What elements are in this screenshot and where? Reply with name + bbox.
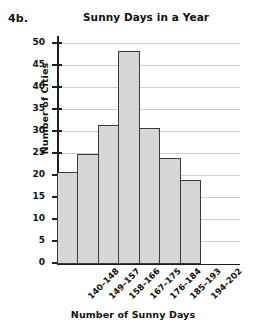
plot-area: 05101520253035404550 (57, 44, 240, 264)
y-axis-tick-label: 0 (39, 257, 45, 267)
bar (57, 172, 79, 264)
bar (77, 154, 99, 264)
chart-title: Sunny Days in a Year (46, 11, 246, 23)
y-axis-title: Number of Cities (39, 63, 50, 155)
figure-label: 4b. (8, 12, 28, 25)
bar (180, 180, 202, 264)
y-axis-tick-label: 5 (39, 235, 45, 245)
x-axis-tick-labels: 140–148149–157158–166167–175176–184185–1… (57, 266, 200, 310)
y-axis-tick-label: 20 (32, 169, 45, 179)
x-axis-title: Number of Sunny Days (0, 309, 266, 320)
histogram-figure: 4b. Sunny Days in a Year 051015202530354… (0, 0, 266, 328)
bar (139, 128, 161, 264)
y-axis-tick-label: 50 (32, 37, 45, 47)
bar (118, 51, 140, 264)
y-axis-tick-label: 15 (32, 191, 45, 201)
bar-series (57, 44, 200, 264)
y-axis-tick-label: 10 (32, 213, 45, 223)
bar (159, 158, 181, 264)
bar (98, 125, 120, 264)
